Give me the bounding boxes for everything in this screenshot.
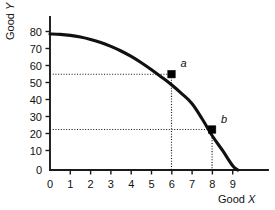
y-tick-labels: 0 10 20 30 40 50 60 70 80	[30, 26, 42, 176]
data-point-a-marker	[168, 71, 175, 78]
y-tick-label: 50	[30, 77, 42, 89]
x-tick-label: 5	[148, 178, 154, 190]
x-tick-label: 9	[230, 178, 236, 190]
x-tick-label: 8	[209, 178, 215, 190]
ppf-curve	[50, 34, 238, 170]
x-tick-label: 1	[67, 178, 73, 190]
data-point-a-label: a	[180, 57, 186, 69]
x-axis-title-var: X	[247, 193, 256, 205]
x-axis-title: Good X	[218, 193, 256, 205]
x-tick-labels: 0 1 2 3 4 5 6 7 8 9	[47, 178, 236, 190]
svg-text:Good Y: Good Y	[4, 2, 16, 40]
data-point-b-label: b	[221, 113, 227, 125]
data-point-b-marker	[208, 126, 215, 133]
x-tick-label: 7	[189, 178, 195, 190]
x-tick-label: 2	[88, 178, 94, 190]
y-tick-label: 0	[36, 164, 42, 176]
x-axis-title-prefix: Good	[218, 193, 245, 205]
chart-canvas: 0 10 20 30 40 50 60 70 80 0 1 2 3 4 5 6 …	[0, 0, 275, 210]
guide-lines-point-a	[50, 74, 172, 170]
y-axis-title-var: Y	[4, 2, 16, 10]
y-tick-label: 20	[30, 128, 42, 140]
y-tick-label: 70	[30, 43, 42, 55]
x-tick-label: 6	[169, 178, 175, 190]
y-tick-label: 10	[30, 145, 42, 157]
y-tick-label: 40	[30, 94, 42, 106]
x-tick-label: 4	[128, 178, 134, 190]
y-axis-title: Good Y	[4, 2, 16, 40]
x-tick-label: 3	[108, 178, 114, 190]
x-tick-label: 0	[47, 178, 53, 190]
guide-lines-point-b	[50, 130, 212, 171]
ppf-chart: 0 10 20 30 40 50 60 70 80 0 1 2 3 4 5 6 …	[0, 0, 275, 210]
y-tick-label: 80	[30, 26, 42, 38]
y-axis-title-prefix: Good	[4, 13, 16, 40]
y-tick-label: 30	[30, 111, 42, 123]
y-tick-label: 60	[30, 60, 42, 72]
